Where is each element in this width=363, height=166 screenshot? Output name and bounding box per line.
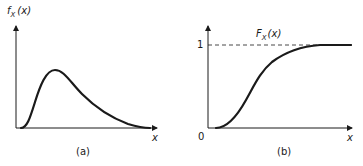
- panel-a-y-label-f: f: [7, 5, 11, 16]
- panel-b-origin-label: 0: [198, 132, 204, 142]
- panel-b-y-label-subscript: X: [262, 34, 267, 42]
- panel-a-x-axis-label: x: [152, 133, 158, 143]
- panel-b-y-label-F: F: [256, 28, 262, 39]
- figure-canvas: [0, 0, 363, 166]
- panel-a-pdf-curve: [21, 70, 150, 128]
- panel-a-caption: (a): [76, 147, 90, 157]
- panel-b-caption: (b): [277, 147, 291, 157]
- panel-a-pdf-chart: [16, 26, 157, 128]
- panel-a-y-label-subscript: X: [11, 11, 16, 19]
- panel-b-x-axis-label: x: [347, 133, 353, 143]
- panel-b-cdf-curve: [216, 45, 351, 128]
- panel-b-y-label-arg: (x): [268, 28, 282, 39]
- panel-b-y-tick-1: 1: [197, 40, 203, 50]
- panel-a-y-axis-label: fX(x): [7, 6, 31, 16]
- panel-a-y-label-arg: (x): [17, 5, 31, 16]
- panel-b-curve-label: FX(x): [256, 29, 281, 39]
- panel-b-cdf-chart: [208, 26, 352, 128]
